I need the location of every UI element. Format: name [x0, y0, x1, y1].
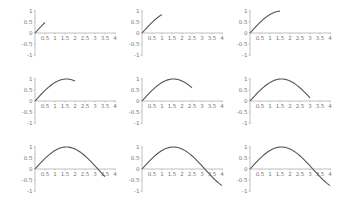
x-tick-label: 3 [308, 171, 312, 177]
sine-curve [250, 147, 330, 186]
plot-panel-9: 0.511.522.533.5410.50-0.5-1 [0, 0, 116, 69]
y-tick-label: -0.5 [237, 177, 248, 183]
y-tick-label: 0.5 [239, 155, 248, 161]
x-tick-label: 2.5 [296, 171, 305, 177]
y-tick-label: 1 [244, 144, 248, 150]
x-tick-label: 1 [268, 171, 272, 177]
x-tick-label: 2 [288, 171, 292, 177]
plot-grid: 0.511.522.533.5410.50-0.5-10.511.522.533… [0, 0, 347, 207]
y-tick-label: -1 [242, 188, 247, 194]
y-tick-label: 0 [244, 166, 248, 172]
sine-plot-9: 0.511.522.533.5410.50-0.5-1 [0, 0, 347, 207]
x-tick-label: 4 [328, 171, 332, 177]
x-tick-label: 1.5 [276, 171, 285, 177]
x-tick-label: 0.5 [256, 171, 265, 177]
